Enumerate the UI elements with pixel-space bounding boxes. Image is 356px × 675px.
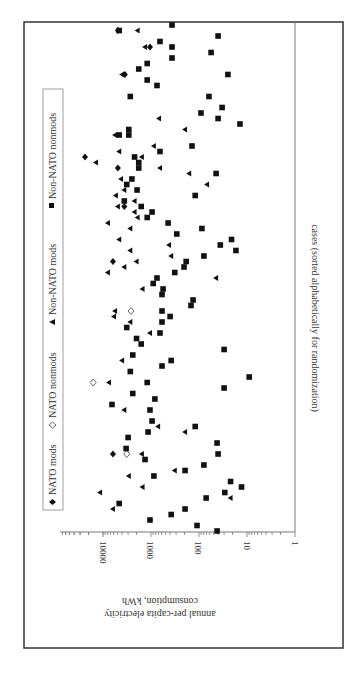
point-nonnato-nonmods	[147, 517, 153, 523]
point-nonnato-nonmods	[174, 231, 180, 237]
point-nonnato-nonmods	[198, 110, 204, 116]
point-nonnato-mods	[121, 264, 126, 270]
scatter-chart: 10000 1000 100 10 1 annual per-capita el…	[0, 0, 356, 675]
point-nonnato-nonmods	[159, 292, 165, 298]
point-nonnato-mods	[119, 72, 124, 78]
point-nonnato-nonmods	[152, 396, 158, 402]
point-nonnato-nonmods	[116, 501, 122, 507]
tick-label-1000: 1000	[145, 541, 155, 560]
point-nonnato-mods	[182, 429, 187, 435]
point-nonnato-mods	[135, 28, 140, 34]
value-axis-tick-labels: 10000 1000 100 10 1	[98, 541, 300, 564]
legend-label-nato-nonmods: NATO nonmods	[47, 352, 58, 418]
point-nonnato-mods	[132, 209, 137, 215]
tick-label-1: 1	[290, 541, 300, 546]
point-nonnato-nonmods	[199, 226, 205, 232]
point-nonnato-nonmods	[124, 182, 130, 188]
point-nonnato-nonmods	[239, 484, 245, 490]
point-nato-mods	[110, 451, 116, 458]
point-nonnato-nonmods	[125, 435, 131, 441]
point-nonnato-nonmods	[168, 358, 174, 364]
point-nonnato-nonmods	[188, 303, 194, 309]
point-nonnato-mods	[186, 171, 191, 177]
point-nato-mods	[147, 44, 153, 51]
point-nonnato-nonmods	[142, 457, 148, 463]
point-nato-mods	[82, 154, 88, 161]
point-nonnato-nonmods	[157, 149, 163, 155]
point-nonnato-mods	[126, 473, 131, 479]
point-nonnato-nonmods	[151, 473, 157, 479]
point-nonnato-nonmods	[127, 94, 133, 100]
point-nonnato-nonmods	[225, 72, 231, 78]
point-nonnato-nonmods	[147, 407, 153, 413]
point-nonnato-mods	[140, 484, 145, 490]
point-nonnato-mods	[127, 319, 132, 325]
point-nonnato-mods	[139, 154, 144, 160]
point-nato-mods	[121, 203, 127, 210]
point-nonnato-nonmods	[126, 132, 132, 138]
tick-label-10000: 10000	[98, 541, 108, 564]
point-nonnato-nonmods	[138, 204, 144, 210]
point-nonnato-nonmods	[136, 66, 142, 72]
point-nonnato-mods	[93, 160, 98, 166]
point-nonnato-nonmods	[215, 116, 221, 122]
point-nonnato-mods	[127, 248, 132, 254]
point-nonnato-nonmods	[144, 380, 150, 386]
point-nonnato-mods	[204, 182, 209, 188]
point-nonnato-mods	[113, 193, 118, 199]
point-nonnato-mods	[142, 44, 147, 50]
point-nonnato-nonmods	[233, 248, 239, 254]
point-nonnato-nonmods	[165, 220, 171, 226]
point-nonnato-nonmods	[217, 242, 223, 248]
point-nonnato-mods	[139, 451, 144, 457]
point-nonnato-nonmods	[130, 391, 136, 397]
point-nonnato-nonmods	[157, 39, 163, 45]
point-nonnato-mods	[105, 270, 110, 276]
point-nonnato-mods	[134, 259, 139, 265]
point-nonnato-mods	[135, 215, 140, 221]
point-nonnato-nonmods	[169, 55, 175, 61]
point-nonnato-mods	[147, 330, 152, 336]
point-nonnato-mods	[106, 380, 111, 386]
point-nonnato-mods	[116, 149, 121, 155]
point-nonnato-mods	[115, 204, 120, 210]
value-axis-ticks	[62, 532, 295, 537]
point-nonnato-mods	[151, 143, 156, 149]
point-nonnato-mods	[166, 242, 171, 248]
point-nonnato-mods	[156, 116, 161, 122]
value-axis-title-line1: annual per-capita electricity	[104, 609, 215, 620]
legend-label-nonnato-mods: Non-NATO mods	[47, 244, 58, 315]
point-nonnato-nonmods	[190, 297, 196, 303]
point-nonnato-mods	[105, 220, 110, 226]
point-nonnato-nonmods	[229, 237, 235, 243]
point-nonnato-nonmods	[124, 325, 130, 331]
point-nonnato-mods	[110, 506, 115, 512]
point-nonnato-nonmods	[145, 429, 151, 435]
point-nonnato-nonmods	[116, 28, 122, 34]
point-nonnato-nonmods	[246, 374, 252, 380]
point-nonnato-mods	[140, 286, 145, 292]
value-axis-title: annual per-capita electricity consumptio…	[104, 596, 215, 620]
point-nonnato-nonmods	[213, 171, 219, 177]
point-nonnato-nonmods	[160, 286, 166, 292]
point-nonnato-nonmods	[134, 336, 140, 342]
point-nonnato-nonmods	[183, 259, 189, 265]
point-nonnato-nonmods	[121, 198, 127, 204]
value-axis-title-line2: consumption, kWh	[122, 596, 198, 607]
point-nonnato-nonmods	[149, 418, 155, 424]
point-nonnato-nonmods	[181, 264, 187, 270]
point-nonnato-nonmods	[189, 143, 195, 149]
point-nonnato-nonmods	[206, 94, 212, 100]
legend: NATO mods NATO nonmods Non-NATO mods Non…	[43, 89, 63, 510]
point-nonnato-nonmods	[159, 319, 165, 325]
point-nonnato-mods	[112, 308, 117, 314]
point-nonnato-mods	[116, 237, 121, 243]
point-nonnato-nonmods	[201, 462, 207, 468]
point-nonnato-nonmods	[194, 523, 200, 529]
point-nonnato-nonmods	[109, 402, 115, 408]
point-nonnato-nonmods	[167, 314, 173, 320]
point-nonnato-nonmods	[182, 468, 188, 474]
point-nato-mods	[115, 165, 121, 172]
point-nato-nonmods	[124, 451, 130, 458]
point-nonnato-mods	[111, 314, 116, 320]
